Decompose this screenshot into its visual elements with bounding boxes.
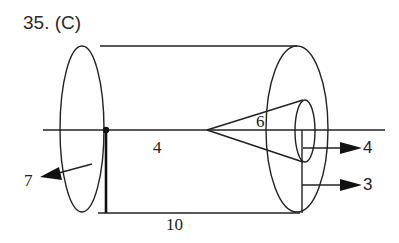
arrow-7-shaft <box>55 164 92 174</box>
left-end-ellipse <box>60 46 104 212</box>
right-end-ellipse <box>266 46 328 212</box>
cone-base-ellipse <box>295 100 315 162</box>
right-arrow-lower-label: 3 <box>363 175 372 195</box>
right-arrow-upper-label: 4 <box>363 138 372 158</box>
cone-upper-line <box>207 100 303 130</box>
left-center-dot <box>103 127 109 133</box>
arrow-7-head <box>40 167 62 180</box>
cylinder-diagram <box>0 0 399 243</box>
cone-angle-label: 6 <box>256 112 265 132</box>
left-arrow-label: 7 <box>24 171 33 191</box>
arrow-3-head <box>340 179 362 191</box>
axis-label: 4 <box>153 138 162 158</box>
arrow-4-head <box>340 142 362 154</box>
diagram-canvas: 35. (C) <box>0 0 399 243</box>
cone-lower-line <box>207 130 303 162</box>
length-label: 10 <box>166 215 183 235</box>
